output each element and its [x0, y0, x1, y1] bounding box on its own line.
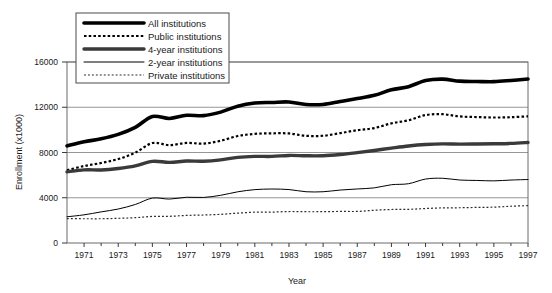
enrollment-line-chart: 0400080001200016000 19711973197519771979…: [0, 0, 552, 293]
x-axis-title: Year: [288, 276, 306, 286]
x-tick-label-1973: 1973: [109, 250, 128, 260]
x-tick-label-1979: 1979: [211, 250, 230, 260]
legend-label-2: 4-year institutions: [148, 44, 223, 55]
y-tick-label-0: 0: [53, 238, 58, 248]
x-tick-label-1985: 1985: [314, 250, 333, 260]
legend-label-3: 2-year institutions: [148, 57, 223, 68]
y-tick-label-8000: 8000: [39, 148, 58, 158]
y-axis-title: Enrollment (x1000): [14, 114, 24, 190]
x-tick-label-1997: 1997: [519, 250, 538, 260]
x-tick-label-1977: 1977: [177, 250, 196, 260]
x-tick-label-1983: 1983: [280, 250, 299, 260]
x-tick-label-1975: 1975: [143, 250, 162, 260]
chart-legend: All institutionsPublic institutions4-yea…: [76, 13, 229, 83]
x-tick-label-1991: 1991: [416, 250, 435, 260]
y-tick-label-12000: 12000: [34, 102, 58, 112]
legend-label-0: All institutions: [148, 18, 206, 29]
x-tick-label-1981: 1981: [245, 250, 264, 260]
x-tick-label-1995: 1995: [484, 250, 503, 260]
y-tick-label-4000: 4000: [39, 193, 58, 203]
legend-label-4: Private institutions: [148, 70, 225, 81]
x-tick-label-1989: 1989: [382, 250, 401, 260]
x-tick-label-1993: 1993: [450, 250, 469, 260]
x-tick-label-1987: 1987: [348, 250, 367, 260]
chart-canvas: 0400080001200016000 19711973197519771979…: [0, 0, 552, 293]
x-tick-label-1971: 1971: [75, 250, 94, 260]
y-tick-label-16000: 16000: [34, 57, 58, 67]
legend-label-1: Public institutions: [148, 31, 222, 42]
